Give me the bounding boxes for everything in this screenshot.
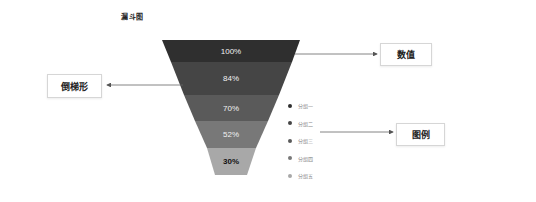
- legend-callout: 图例: [396, 123, 445, 146]
- value-callout: 数值: [380, 43, 432, 66]
- shape-callout: 倒梯形: [47, 74, 102, 98]
- annotation-arrows: [0, 0, 536, 202]
